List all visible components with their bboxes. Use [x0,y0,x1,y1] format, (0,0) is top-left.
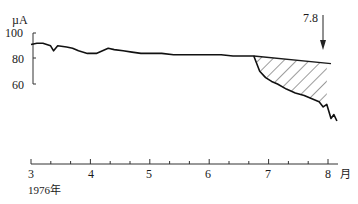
x-axis-unit-label: 月 [340,168,351,180]
hatched-region [254,56,327,107]
x-tick-label: 5 [146,168,152,180]
year-label: 1976年 [28,184,61,196]
chart-canvas [0,0,358,204]
y-axis [33,33,36,84]
x-axis [31,159,338,164]
y-tick-label: 60 [12,79,24,91]
annotation-label: 7.8 [303,12,318,24]
x-tick-label: 4 [88,168,94,180]
annotation-arrow [320,15,326,50]
x-tick-label: 6 [205,168,211,180]
y-axis-unit-label: µA [12,14,28,26]
x-tick-label: 7 [265,168,271,180]
x-tick-label: 8 [325,168,331,180]
y-tick-label: 80 [12,53,24,65]
y-tick-label: 100 [5,27,23,39]
x-tick-label: 3 [28,168,34,180]
